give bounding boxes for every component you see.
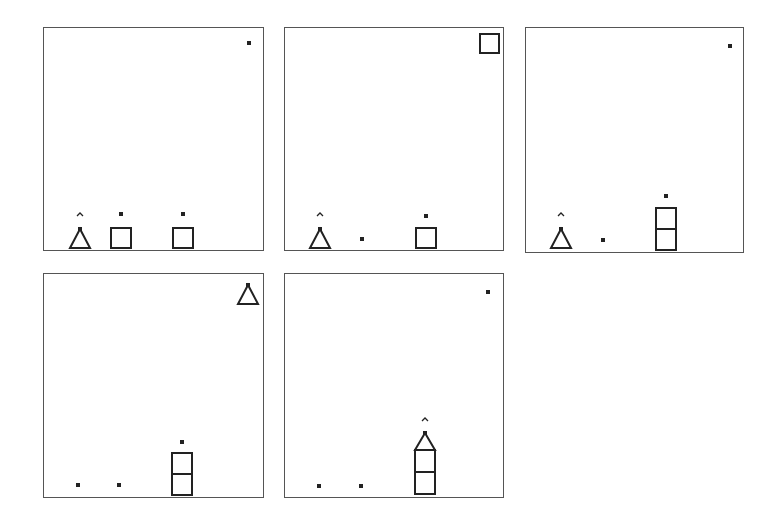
- square-block-icon: [480, 34, 499, 53]
- panel-5: [284, 273, 504, 498]
- triangle-block-icon: [415, 431, 435, 450]
- square-block-icon: [415, 450, 435, 472]
- panel-4-canvas: [44, 274, 263, 497]
- square-block-icon: [415, 472, 435, 494]
- dot-marker-icon: [664, 194, 668, 198]
- square-block-icon: [656, 229, 676, 250]
- panel-4: [43, 273, 264, 498]
- dot-marker-icon: [76, 483, 80, 487]
- triangle-block-icon: [310, 227, 330, 248]
- triangle-block-icon: [238, 283, 258, 304]
- triangle-block-icon: [551, 227, 571, 248]
- dot-marker-icon: [119, 212, 123, 216]
- panel-3: [525, 27, 744, 253]
- caret-marker-icon: [422, 418, 428, 421]
- caret-marker-icon: [317, 213, 323, 216]
- square-block-icon: [172, 453, 192, 474]
- dot-marker-icon: [601, 238, 605, 242]
- dot-marker-icon: [360, 237, 364, 241]
- square-block-icon: [172, 474, 192, 495]
- dot-marker-icon: [117, 483, 121, 487]
- dot-marker-icon: [180, 440, 184, 444]
- panel-3-canvas: [526, 28, 743, 252]
- panel-1: [43, 27, 264, 251]
- panel-2-canvas: [285, 28, 503, 250]
- triangle-block-icon: [70, 227, 90, 248]
- dot-marker-icon: [486, 290, 490, 294]
- caret-marker-icon: [558, 213, 564, 216]
- panel-2: [284, 27, 504, 251]
- square-block-icon: [111, 228, 131, 248]
- dot-marker-icon: [181, 212, 185, 216]
- square-block-icon: [416, 228, 436, 248]
- panel-1-canvas: [44, 28, 263, 250]
- dot-marker-icon: [317, 484, 321, 488]
- caret-marker-icon: [77, 213, 83, 216]
- dot-marker-icon: [359, 484, 363, 488]
- square-block-icon: [656, 208, 676, 229]
- dot-marker-icon: [728, 44, 732, 48]
- dot-marker-icon: [424, 214, 428, 218]
- panel-5-canvas: [285, 274, 503, 497]
- square-block-icon: [173, 228, 193, 248]
- dot-marker-icon: [247, 41, 251, 45]
